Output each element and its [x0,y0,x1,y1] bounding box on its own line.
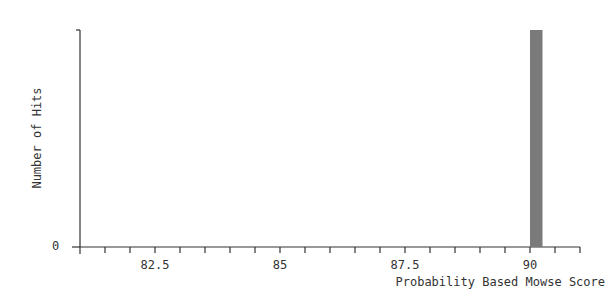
y-axis-label: Number of Hits [30,87,44,188]
x-axis-label: Probability Based Mowse Score [395,275,605,289]
chart-bars [530,30,543,247]
x-axis-tick-label: 90 [523,258,537,272]
x-axis-tick-label: 85 [273,258,287,272]
chart-axes [72,30,580,254]
x-axis-tick-label: 87.5 [391,258,420,272]
histogram-bar [530,30,543,247]
x-axis-tick-label: 82.5 [141,258,170,272]
y-axis-zero-label: 0 [52,239,59,253]
